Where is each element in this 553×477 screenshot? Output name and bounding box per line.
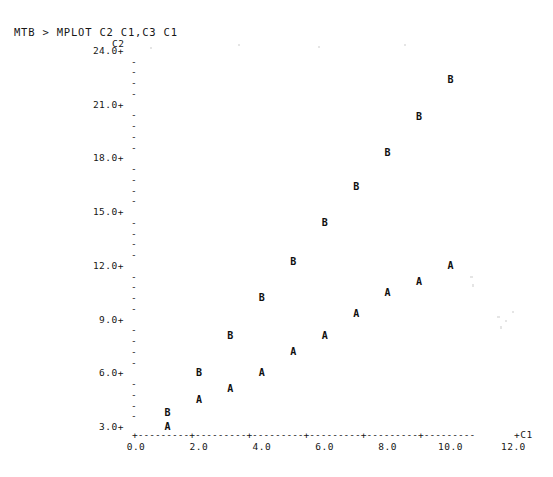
y-axis-minor-tick: - bbox=[131, 250, 137, 260]
scan-artifact bbox=[505, 320, 507, 322]
minitab-terminal-output: MTB > MPLOT C2 C1,C3 C1 C2 24.0+----21.0… bbox=[0, 0, 553, 477]
y-axis-minor-tick: - bbox=[131, 239, 137, 249]
y-axis-minor-tick: - bbox=[131, 121, 137, 131]
data-point-a: A bbox=[447, 261, 455, 271]
data-point-b: B bbox=[321, 218, 329, 228]
x-axis-tick-label: 2.0 bbox=[179, 442, 219, 452]
x-axis-tick-label: 10.0 bbox=[431, 442, 471, 452]
data-point-b: B bbox=[226, 331, 234, 341]
y-axis-minor-tick: - bbox=[131, 110, 137, 120]
data-point-b: B bbox=[352, 182, 360, 192]
x-axis-variable-label: +C1 bbox=[514, 430, 533, 440]
scan-artifact bbox=[497, 316, 500, 318]
y-axis-minor-tick: - bbox=[131, 78, 137, 88]
y-axis-minor-tick: - bbox=[131, 304, 137, 314]
scan-artifact bbox=[150, 47, 152, 49]
y-axis-minor-tick: - bbox=[131, 175, 137, 185]
y-axis-minor-tick: - bbox=[131, 164, 137, 174]
data-point-b: B bbox=[415, 112, 423, 122]
y-axis-minor-tick: - bbox=[131, 57, 137, 67]
data-point-b: B bbox=[163, 408, 171, 418]
y-axis-minor-tick: - bbox=[131, 336, 137, 346]
data-point-b: B bbox=[289, 257, 297, 267]
x-axis-line: +---------+---------+---------+---------… bbox=[132, 430, 475, 440]
y-axis-minor-tick: - bbox=[131, 196, 137, 206]
y-axis-minor-tick: - bbox=[131, 218, 137, 228]
x-axis-tick-label: 6.0 bbox=[305, 442, 345, 452]
y-axis-minor-tick: - bbox=[131, 358, 137, 368]
y-axis-minor-tick: - bbox=[131, 186, 137, 196]
data-point-a: A bbox=[289, 347, 297, 357]
y-axis-tick-label: 18.0+ bbox=[78, 153, 124, 163]
data-point-b: B bbox=[447, 75, 455, 85]
y-axis-minor-tick: - bbox=[131, 67, 137, 77]
y-axis-minor-tick: - bbox=[131, 282, 137, 292]
y-axis-minor-tick: - bbox=[131, 229, 137, 239]
data-point-a: A bbox=[384, 288, 392, 298]
y-axis-minor-tick: - bbox=[131, 379, 137, 389]
y-axis-minor-tick: - bbox=[131, 89, 137, 99]
scan-artifact bbox=[512, 311, 514, 313]
y-axis-tick-label: 9.0+ bbox=[78, 315, 124, 325]
data-point-b: B bbox=[195, 368, 203, 378]
x-axis-tick-label: 12.0 bbox=[493, 442, 533, 452]
y-axis-tick-label: 3.0+ bbox=[78, 422, 124, 432]
x-axis-tick-label: 8.0 bbox=[368, 442, 408, 452]
y-axis-minor-tick: - bbox=[131, 143, 137, 153]
scan-artifact bbox=[500, 326, 502, 329]
y-axis-tick-label: 6.0+ bbox=[78, 368, 124, 378]
x-axis-tick-label: 0.0 bbox=[116, 442, 156, 452]
y-axis-minor-tick: - bbox=[131, 272, 137, 282]
plot-area: 24.0+----21.0+----18.0+----15.0+----12.0… bbox=[0, 0, 553, 477]
data-point-a: A bbox=[415, 277, 423, 287]
scan-artifact bbox=[472, 284, 474, 287]
data-point-a: A bbox=[321, 331, 329, 341]
y-axis-minor-tick: - bbox=[131, 293, 137, 303]
y-axis-minor-tick: - bbox=[131, 411, 137, 421]
data-point-a: A bbox=[352, 309, 360, 319]
data-point-b: B bbox=[258, 293, 266, 303]
y-axis-minor-tick: - bbox=[131, 401, 137, 411]
data-point-b: B bbox=[384, 148, 392, 158]
y-axis-minor-tick: - bbox=[131, 325, 137, 335]
data-point-a: A bbox=[226, 384, 234, 394]
y-axis-tick-label: 15.0+ bbox=[78, 207, 124, 217]
y-axis-minor-tick: - bbox=[131, 390, 137, 400]
scan-artifact bbox=[238, 44, 240, 46]
y-axis-tick-label: 24.0+ bbox=[78, 46, 124, 56]
y-axis-minor-tick: - bbox=[131, 347, 137, 357]
y-axis-tick-label: 21.0+ bbox=[78, 100, 124, 110]
data-point-a: A bbox=[195, 395, 203, 405]
y-axis-tick-label: 12.0+ bbox=[78, 261, 124, 271]
x-axis-tick-label: 4.0 bbox=[242, 442, 282, 452]
scan-artifact bbox=[404, 44, 406, 46]
y-axis-minor-tick: - bbox=[131, 132, 137, 142]
scan-artifact bbox=[470, 276, 473, 278]
scan-artifact bbox=[318, 46, 320, 48]
data-point-a: A bbox=[258, 368, 266, 378]
